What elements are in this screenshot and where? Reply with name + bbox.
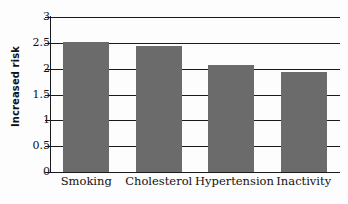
y-tick-label: 2.5 — [9, 36, 50, 49]
x-axis-labels: SmokingCholesterolHypertensionInactivity — [50, 174, 340, 200]
y-tick-label: 0.5 — [9, 139, 50, 152]
gridline — [50, 17, 340, 18]
x-axis-label: Cholesterol — [123, 174, 196, 188]
x-axis-label: Smoking — [50, 174, 123, 188]
plot-area — [50, 17, 340, 172]
bar — [63, 42, 109, 172]
x-axis-label: Inactivity — [268, 174, 341, 188]
y-tick-label: 2 — [9, 62, 50, 75]
bar — [208, 65, 254, 172]
x-axis-label: Hypertension — [195, 174, 268, 188]
y-tick-label: 1.5 — [9, 88, 50, 101]
y-tick-label: 3 — [9, 10, 50, 23]
gridline — [50, 172, 340, 173]
y-axis-ticks: 32.521.510.50 — [0, 0, 50, 204]
bar-chart-figure: Increased risk 32.521.510.50 SmokingChol… — [0, 0, 348, 204]
y-tick-label: 0 — [9, 165, 50, 178]
y-tick-label: 1 — [9, 113, 50, 126]
bar — [136, 46, 182, 172]
bar — [281, 72, 327, 172]
